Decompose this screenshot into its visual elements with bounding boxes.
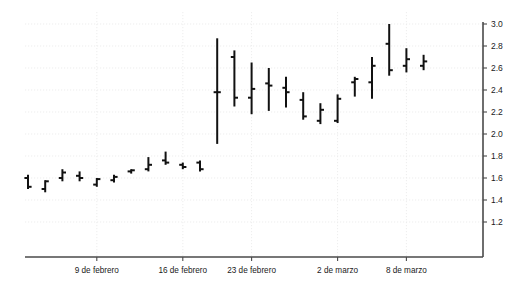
ohlc-bar-19 [351,77,358,97]
ohlc-bar-12 [231,50,238,106]
y-tick-label-3: 1.8 [491,151,503,161]
x-tick-label-0: 9 de febrero [75,266,120,275]
ohlc-bar-22 [403,48,410,72]
ohlc-bar-14 [265,68,272,111]
y-tick-label-4: 2.0 [491,129,503,139]
y-tick-label-9: 3.0 [491,19,503,29]
ohlc-bar-8 [162,152,169,165]
ohlc-bar-6 [128,169,135,173]
x-axis-labels-group: 9 de febrero16 de febrero23 de febrero2 … [75,266,428,275]
chart-canvas: 1.21.41.61.82.02.22.42.62.83.0 9 de febr… [0,0,521,298]
x-tick-label-3: 2 de marzo [317,266,358,275]
ohlc-bar-18 [334,94,341,123]
ohlc-bar-17 [317,103,324,124]
ohlc-bar-15 [282,77,289,108]
axes-group [25,22,487,261]
ohlc-bar-16 [300,92,307,120]
x-tick-label-2: 23 de febrero [227,266,276,275]
ohlc-bar-11 [214,38,221,144]
ohlc-bar-5 [110,175,117,183]
y-tick-label-8: 2.8 [491,41,503,51]
ohlc-bars-group [24,24,427,192]
y-tick-label-5: 2.2 [491,107,503,117]
y-tick-label-6: 2.4 [491,85,503,95]
ohlc-bar-3 [76,171,83,181]
ohlc-bar-10 [196,160,203,171]
ohlc-bar-0 [24,175,31,189]
y-tick-label-2: 1.6 [491,173,503,183]
ohlc-bar-13 [248,63,255,115]
x-tick-label-4: 8 de marzo [386,266,427,275]
ohlc-bar-7 [145,157,152,171]
ohlc-bar-20 [368,57,375,99]
y-tick-label-0: 1.2 [491,217,503,227]
y-axis-labels-group: 1.21.41.61.82.02.22.42.62.83.0 [491,19,503,227]
y-tick-label-1: 1.4 [491,195,503,205]
ohlc-bar-2 [59,169,66,181]
ohlc-bar-4 [93,178,100,187]
ohlc-bar-9 [179,163,186,170]
x-tick-label-1: 16 de febrero [158,266,207,275]
ohlc-bar-1 [42,180,49,192]
ohlc-chart-container: 1.21.41.61.82.02.22.42.62.83.0 9 de febr… [0,0,521,298]
gridlines-group [25,12,483,257]
y-tick-label-7: 2.6 [491,63,503,73]
